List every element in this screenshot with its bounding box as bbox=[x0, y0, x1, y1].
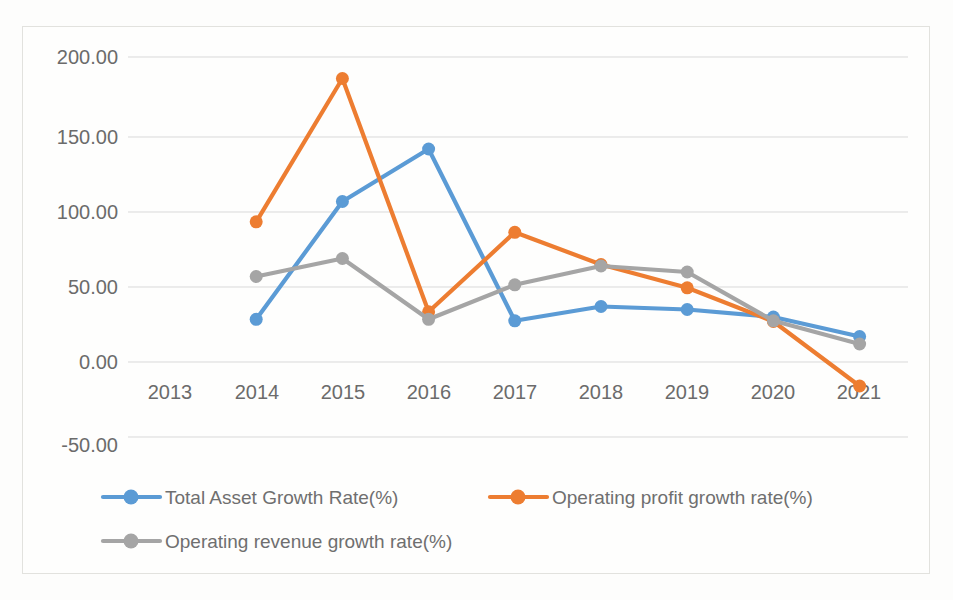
legend-label-operating-revenue-growth-rate: Operating revenue growth rate(%) bbox=[165, 531, 452, 552]
data-point-operating-revenue-growth-rate-2019 bbox=[681, 266, 694, 279]
series-operating-profit-growth-rate bbox=[250, 72, 866, 393]
x-axis-tick-labels: 2013 2014 2015 2016 2017 2018 2019 2020 … bbox=[148, 381, 882, 403]
x-tick-label-2014: 2014 bbox=[235, 381, 280, 403]
x-tick-label-2018: 2018 bbox=[579, 381, 624, 403]
data-series-layer bbox=[250, 72, 866, 393]
data-point-operating-revenue-growth-rate-2014 bbox=[250, 270, 263, 283]
legend-label-operating-profit-growth-rate: Operating profit growth rate(%) bbox=[552, 487, 813, 508]
series-operating-revenue-growth-rate bbox=[250, 252, 866, 351]
data-point-operating-revenue-growth-rate-2020 bbox=[767, 314, 780, 327]
legend-marker-total-asset-growth-rate bbox=[124, 490, 139, 505]
data-point-total-asset-growth-rate-2017 bbox=[508, 314, 521, 327]
x-tick-label-2017: 2017 bbox=[493, 381, 538, 403]
series-total-asset-growth-rate bbox=[250, 143, 866, 344]
legend-marker-operating-profit-growth-rate bbox=[511, 490, 526, 505]
line-chart: 200.00 150.00 100.00 50.00 0.00 -50.00 2… bbox=[0, 0, 953, 600]
x-tick-label-2016: 2016 bbox=[407, 381, 452, 403]
series-line-total-asset-growth-rate bbox=[256, 149, 859, 337]
x-tick-label-2015: 2015 bbox=[321, 381, 366, 403]
x-tick-label-2013: 2013 bbox=[148, 381, 193, 403]
data-point-operating-profit-growth-rate-2019 bbox=[681, 281, 694, 294]
chart-legend: Total Asset Growth Rate(%) Operating pro… bbox=[103, 487, 813, 552]
y-tick-label-200: 200.00 bbox=[57, 46, 118, 68]
series-line-operating-profit-growth-rate bbox=[256, 79, 859, 387]
data-point-total-asset-growth-rate-2015 bbox=[336, 195, 349, 208]
data-point-total-asset-growth-rate-2016 bbox=[422, 143, 435, 156]
x-tick-label-2019: 2019 bbox=[665, 381, 710, 403]
data-point-operating-revenue-growth-rate-2017 bbox=[508, 278, 521, 291]
y-tick-label-150: 150.00 bbox=[57, 126, 118, 148]
data-point-total-asset-growth-rate-2018 bbox=[595, 300, 608, 313]
data-point-operating-profit-growth-rate-2014 bbox=[250, 215, 263, 228]
data-point-total-asset-growth-rate-2019 bbox=[681, 303, 694, 316]
legend-marker-operating-revenue-growth-rate bbox=[124, 534, 139, 549]
data-point-operating-revenue-growth-rate-2015 bbox=[336, 252, 349, 265]
data-point-operating-revenue-growth-rate-2021 bbox=[853, 338, 866, 351]
y-tick-label-50: 50.00 bbox=[68, 276, 118, 298]
y-tick-label-0: 0.00 bbox=[79, 351, 118, 373]
chart-container: 200.00 150.00 100.00 50.00 0.00 -50.00 2… bbox=[0, 0, 953, 600]
data-point-operating-profit-growth-rate-2015 bbox=[336, 72, 349, 85]
data-point-operating-revenue-growth-rate-2016 bbox=[422, 313, 435, 326]
gridlines bbox=[128, 57, 908, 437]
y-axis-tick-labels: 200.00 150.00 100.00 50.00 0.00 -50.00 bbox=[57, 46, 118, 456]
data-point-operating-profit-growth-rate-2017 bbox=[508, 226, 521, 239]
y-tick-label-neg50: -50.00 bbox=[61, 434, 118, 456]
series-line-operating-revenue-growth-rate bbox=[256, 259, 859, 345]
data-point-total-asset-growth-rate-2014 bbox=[250, 313, 263, 326]
data-point-operating-revenue-growth-rate-2018 bbox=[595, 260, 608, 273]
data-point-operating-profit-growth-rate-2021 bbox=[853, 380, 866, 393]
y-tick-label-100: 100.00 bbox=[57, 201, 118, 223]
legend-label-total-asset-growth-rate: Total Asset Growth Rate(%) bbox=[165, 487, 398, 508]
x-tick-label-2020: 2020 bbox=[751, 381, 796, 403]
